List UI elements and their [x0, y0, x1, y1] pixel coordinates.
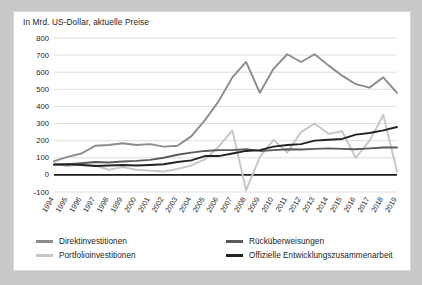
x-axis-tick-label: 2007 — [218, 196, 234, 215]
x-axis-tick-label: 2018 — [369, 196, 385, 215]
x-axis-tick-label: 2002 — [150, 196, 166, 215]
x-axis-tick-label: 2014 — [314, 196, 330, 215]
y-axis-tick-label: 600 — [36, 68, 49, 77]
x-axis-tick-label: 2006 — [204, 196, 220, 215]
legend-label-rueckueberweisungen: Rücküberweisungen — [249, 237, 324, 246]
legend-swatch-direktinvestitionen — [36, 240, 53, 243]
plot-area: 8007006005004003002001000-10019941995199… — [23, 30, 403, 230]
x-axis-tick-label: 2017 — [355, 196, 371, 215]
series-line-offizielle-entwicklungszusammenarbeit — [54, 127, 397, 166]
x-axis-tick-label: 2012 — [287, 196, 303, 215]
legend-swatch-portfolioinvestitionen — [36, 254, 53, 257]
series-line-portfolioinvestitionen — [54, 115, 397, 190]
y-axis-tick-label: 100 — [36, 153, 49, 162]
x-axis-tick-label: 2000 — [122, 196, 138, 215]
x-axis-tick-label: 2004 — [177, 196, 193, 215]
series-line-direktinvestitionen — [54, 54, 397, 161]
x-axis-tick-label: 1997 — [81, 196, 97, 215]
legend-swatch-rueckueberweisungen — [226, 240, 243, 243]
legend-column-right: Rücküberweisungen Offizielle Entwicklung… — [226, 234, 393, 262]
legend-label-oda: Offizielle Entwicklungszusammenarbeit — [249, 251, 393, 260]
y-axis-tick-label: 500 — [36, 85, 49, 94]
screenshot-root: In Mrd. US-Dollar, aktuelle Preise 80070… — [0, 0, 422, 285]
x-axis-tick-label: 1998 — [95, 196, 111, 215]
x-axis-tick-label: 1996 — [67, 196, 83, 215]
legend-item-portfolioinvestitionen: Portfolioinvestitionen — [36, 248, 136, 262]
legend-label-portfolioinvestitionen: Portfolioinvestitionen — [59, 251, 136, 260]
y-axis-tick-label: -100 — [34, 188, 49, 197]
x-axis-tick-label: 2015 — [328, 196, 344, 215]
legend-item-direktinvestitionen: Direktinvestitionen — [36, 234, 136, 248]
chart-title: In Mrd. US-Dollar, aktuelle Preise — [23, 17, 149, 27]
y-axis-tick-label: 400 — [36, 102, 49, 111]
legend-label-direktinvestitionen: Direktinvestitionen — [59, 237, 127, 246]
y-axis-tick-label: 300 — [36, 119, 49, 128]
x-axis-tick-label: 1994 — [40, 196, 56, 215]
x-axis-tick-label: 1995 — [54, 196, 70, 215]
x-axis-tick-label: 2009 — [246, 196, 262, 215]
x-axis-tick-label: 1999 — [108, 196, 124, 215]
y-axis-tick-label: 800 — [36, 34, 49, 43]
x-axis-tick-label: 2013 — [301, 196, 317, 215]
x-axis-tick-label: 2001 — [136, 196, 152, 215]
legend-item-rueckueberweisungen: Rücküberweisungen — [226, 234, 393, 248]
x-axis-tick-label: 2010 — [259, 196, 275, 215]
x-axis-tick-label: 2008 — [232, 196, 248, 215]
x-axis-tick-label: 2019 — [383, 196, 399, 215]
legend-column-left: Direktinvestitionen Portfolioinvestition… — [36, 234, 136, 262]
chart-card: In Mrd. US-Dollar, aktuelle Preise 80070… — [14, 12, 410, 270]
y-axis-tick-label: 200 — [36, 136, 49, 145]
chart-legend: Direktinvestitionen Portfolioinvestition… — [14, 234, 410, 268]
y-axis-tick-label: 0 — [45, 170, 49, 179]
x-axis-tick-label: 2003 — [163, 196, 179, 215]
line-chart-svg: 8007006005004003002001000-10019941995199… — [23, 30, 403, 230]
legend-item-oda: Offizielle Entwicklungszusammenarbeit — [226, 248, 393, 262]
x-axis-tick-label: 2005 — [191, 196, 207, 215]
x-axis-tick-label: 2016 — [342, 196, 358, 215]
legend-swatch-oda — [226, 254, 243, 257]
x-axis-tick-label: 2011 — [273, 196, 289, 214]
y-axis-tick-label: 700 — [36, 51, 49, 60]
series-line-r-ck-berweisungen — [54, 148, 397, 165]
